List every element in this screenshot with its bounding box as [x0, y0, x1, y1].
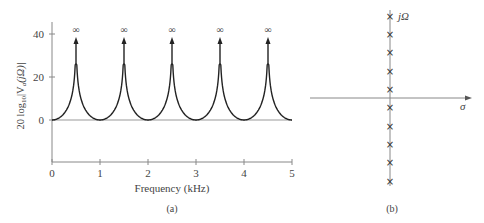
figure: 40 20 0 0 1 2 3 4 5 Frequency (kHz) (a) …: [0, 0, 484, 223]
xtick-label: 5: [289, 167, 295, 179]
pole-marker-icon: ×: [386, 102, 394, 113]
panel-a: 40 20 0 0 1 2 3 4 5 Frequency (kHz) (a) …: [15, 22, 295, 215]
magnitude-curve: [52, 64, 292, 120]
panel-label-a: (a): [166, 203, 177, 215]
pole-marker-icon: ×: [386, 11, 394, 22]
pole-marker-icon: ×: [386, 66, 394, 77]
pole-marker-icon: ×: [386, 176, 394, 187]
xtick-label: 0: [49, 167, 55, 179]
infinity-label: ∞: [264, 24, 271, 35]
xtick-label: 3: [193, 167, 199, 179]
arrow-up-icon: [266, 37, 271, 44]
pole-marker-icon: ×: [386, 29, 394, 40]
pole-marker-icon: ×: [386, 157, 394, 168]
pole-marker-icon: ×: [386, 139, 394, 150]
pole-marker-icon: ×: [386, 121, 394, 132]
xtick-label: 1: [97, 167, 103, 179]
ytick-label: 0: [39, 114, 45, 126]
arrow-up-icon: [218, 37, 223, 44]
infinity-label: ∞: [216, 24, 223, 35]
y-axis-label: 20 log10|Va(jΩ)|: [15, 62, 28, 129]
infinity-label: ∞: [120, 24, 127, 35]
infinity-arrows: ∞∞∞∞∞: [72, 24, 271, 64]
ytick-label: 20: [33, 71, 45, 83]
xtick-label: 2: [145, 167, 151, 179]
infinity-label: ∞: [168, 24, 175, 35]
jomega-label: jΩ: [396, 10, 409, 22]
sigma-label: σ: [460, 100, 466, 112]
x-axis-label: Frequency (kHz): [135, 182, 210, 195]
panel-b: jΩ σ ×××××××××× (b): [310, 10, 472, 215]
pole-marker-icon: ×: [386, 47, 394, 58]
arrow-up-icon: [170, 37, 175, 44]
sigma-arrow-icon: [465, 96, 472, 101]
pole-marker-icon: ×: [386, 84, 394, 95]
arrow-up-icon: [74, 37, 79, 44]
infinity-label: ∞: [72, 24, 79, 35]
panel-label-b: (b): [386, 203, 398, 215]
xtick-label: 4: [241, 167, 247, 179]
arrow-up-icon: [122, 37, 127, 44]
ytick-label: 40: [33, 28, 45, 40]
